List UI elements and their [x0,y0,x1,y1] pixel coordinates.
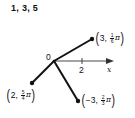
tick-label: 2 [79,65,84,75]
segment-point-b [32,61,54,83]
fraction: 54 [21,90,25,101]
point-b-label: ( 2, 54 π ) [6,88,36,102]
point-c-dot [76,99,80,103]
fraction: 16 [110,33,114,44]
fraction: 23 [101,95,105,106]
axis-arrow-icon [106,58,114,64]
axis-label: x [107,65,111,74]
point-c-label: ( −3, 23 π ) [81,93,116,107]
origin-label: 0 [46,52,51,62]
segment-point-a [54,39,92,61]
point-b-dot [30,81,34,85]
point-a-label: ( 3, 16 π ) [95,31,125,45]
origin-dot [53,60,56,63]
point-a-dot [90,37,94,41]
segment-point-c [54,61,78,101]
